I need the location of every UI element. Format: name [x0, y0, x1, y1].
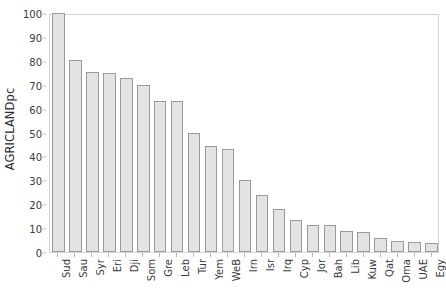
x-axis-tick-mark	[210, 253, 211, 257]
y-axis-tick-mark	[43, 61, 46, 62]
x-axis-tick-label: Irq	[282, 259, 293, 272]
x-axis-tick-mark	[57, 253, 58, 257]
bar	[307, 225, 320, 252]
y-axis-tick-label: 20	[29, 200, 42, 211]
x-axis-tick-label: Egy	[435, 259, 446, 278]
bar	[120, 78, 133, 252]
x-axis-tick-label: Som	[146, 259, 157, 281]
x-axis-tick-mark	[159, 253, 160, 257]
x-axis-tick-label: UAE	[418, 259, 429, 279]
x-axis-tick-mark	[125, 253, 126, 257]
x-axis-tick-mark	[363, 253, 364, 257]
bar	[391, 241, 404, 252]
bar	[188, 133, 201, 253]
x-axis-tick-label: Oma	[401, 259, 412, 283]
x-axis-tick-label: Lib	[350, 259, 361, 274]
x-axis-tick-mark	[295, 253, 296, 257]
x-axis-tick-mark	[108, 253, 109, 257]
x-axis-tick-label: Dji	[129, 259, 140, 272]
bar	[324, 225, 337, 252]
bar	[374, 238, 387, 252]
y-axis-title-text: AGRICLANDpc	[3, 88, 17, 171]
x-axis-tick-label: Sud	[61, 259, 72, 278]
x-axis-tick-label: Sau	[78, 259, 89, 278]
x-axis-tick-mark	[227, 253, 228, 257]
y-axis-tick-label: 30	[29, 176, 42, 187]
plot-area	[49, 14, 439, 253]
bar	[103, 73, 116, 252]
y-axis-tick-mark	[43, 37, 46, 38]
x-axis-tick-mark	[329, 253, 330, 257]
bar	[273, 209, 286, 252]
x-axis-tick-mark	[176, 253, 177, 257]
bars-layer	[50, 15, 438, 252]
bar	[256, 195, 269, 252]
x-axis-tick-mark	[397, 253, 398, 257]
y-axis-tick-label: 0	[36, 248, 42, 259]
y-axis-tick-mark	[43, 157, 46, 158]
y-axis-tick-label: 90	[29, 32, 42, 43]
x-axis-tick-label: Gre	[163, 259, 174, 277]
x-axis-tick-label: Cyp	[299, 259, 310, 278]
y-axis-tick-mark	[43, 205, 46, 206]
bar	[290, 220, 303, 252]
x-axis-tick-label: Kuw	[367, 259, 378, 280]
x-axis-tick-mark	[244, 253, 245, 257]
bar	[340, 231, 353, 253]
y-axis-title: AGRICLANDpc	[0, 0, 20, 258]
bar	[86, 72, 99, 252]
y-axis-tick-label: 100	[23, 9, 42, 20]
x-axis-tick-label: Qat	[384, 259, 395, 277]
x-axis-tick-mark	[414, 253, 415, 257]
x-axis-tick-labels: SudSauSyrEriDjiSomGreLebTurYemWeBIrnIsrI…	[49, 253, 439, 303]
x-axis-tick-mark	[142, 253, 143, 257]
x-axis-tick-mark	[431, 253, 432, 257]
x-axis-tick-label: Syr	[95, 259, 106, 275]
bar	[154, 101, 167, 252]
x-axis-tick-label: WeB	[231, 259, 242, 281]
y-axis-tick-mark	[43, 85, 46, 86]
x-axis-tick-label: Bah	[333, 259, 344, 278]
y-axis-tick-label: 70	[29, 80, 42, 91]
x-axis-tick-mark	[261, 253, 262, 257]
y-axis-tick-mark	[43, 133, 46, 134]
x-axis-tick-label: Yem	[214, 259, 225, 280]
bar	[425, 243, 438, 252]
x-axis-tick-label: Eri	[112, 259, 123, 272]
y-axis-tick-label: 60	[29, 104, 42, 115]
bar	[357, 232, 370, 252]
x-axis-tick-mark	[278, 253, 279, 257]
x-axis-tick-mark	[91, 253, 92, 257]
x-axis-tick-mark	[380, 253, 381, 257]
y-axis-tick-mark	[43, 229, 46, 230]
bar	[171, 101, 184, 252]
bar	[137, 85, 150, 252]
y-axis-tick-mark	[43, 109, 46, 110]
bar	[69, 60, 82, 252]
x-axis-tick-label: Leb	[180, 259, 191, 277]
x-axis-tick-mark	[74, 253, 75, 257]
bar	[408, 242, 421, 252]
y-axis-tick-labels: 0102030405060708090100	[20, 14, 46, 253]
y-axis-tick-label: 50	[29, 128, 42, 139]
bar-chart: AGRICLANDpc 0102030405060708090100 SudSa…	[0, 0, 446, 303]
x-axis-tick-mark	[312, 253, 313, 257]
bar	[52, 13, 65, 252]
x-axis-tick-mark	[346, 253, 347, 257]
x-axis-tick-mark	[193, 253, 194, 257]
y-axis-tick-label: 40	[29, 152, 42, 163]
bar	[239, 180, 252, 252]
y-axis-tick-mark	[43, 253, 46, 254]
y-axis-tick-label: 10	[29, 224, 42, 235]
x-axis-tick-label: Tur	[197, 259, 208, 274]
y-axis-tick-mark	[43, 14, 46, 15]
bar	[205, 146, 218, 252]
x-axis-tick-label: Isr	[265, 259, 276, 271]
y-axis-tick-label: 80	[29, 56, 42, 67]
bar	[222, 149, 235, 252]
x-axis-tick-label: Irn	[248, 259, 259, 272]
x-axis-tick-label: Jor	[316, 259, 327, 272]
y-axis-tick-mark	[43, 181, 46, 182]
